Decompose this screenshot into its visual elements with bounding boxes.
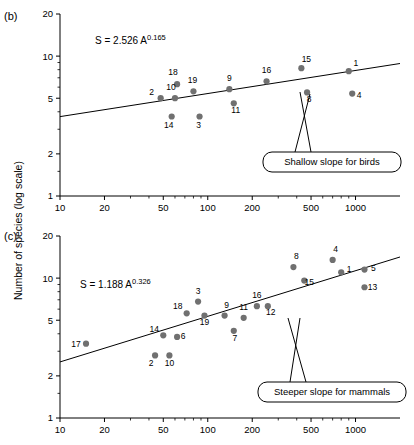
y-tick-label: 20 bbox=[42, 230, 53, 241]
x-tick-label: 1000 bbox=[345, 424, 366, 435]
data-point bbox=[254, 303, 260, 309]
data-point-label: 16 bbox=[262, 65, 272, 75]
panel-b-label: (b) bbox=[4, 10, 17, 22]
data-point-label: 11 bbox=[239, 302, 248, 312]
y-tick-label: 2 bbox=[48, 370, 53, 381]
data-point-label: 19 bbox=[200, 317, 210, 327]
data-point-label: 19 bbox=[188, 75, 198, 85]
data-point-label: 2 bbox=[149, 87, 154, 97]
x-tick-label: 20 bbox=[99, 202, 110, 213]
x-tick-label: 50 bbox=[158, 202, 169, 213]
data-point bbox=[361, 284, 367, 290]
data-point-label: 3 bbox=[196, 286, 201, 296]
data-point bbox=[190, 88, 196, 94]
y-tick-label: 5 bbox=[48, 315, 53, 326]
y-tick-label: 1 bbox=[48, 412, 53, 423]
data-point bbox=[172, 95, 178, 101]
x-tick-label: 200 bbox=[244, 424, 260, 435]
data-point bbox=[361, 267, 367, 273]
y-axis-label: Number of species (log scale) bbox=[12, 161, 24, 300]
x-tick-label: 1000 bbox=[345, 202, 366, 213]
data-point-label: 10 bbox=[166, 82, 176, 92]
data-point bbox=[338, 269, 344, 275]
equation-annotation: S = 1.188 A0.326 bbox=[80, 277, 151, 290]
y-tick-label: 10 bbox=[42, 51, 53, 62]
data-point bbox=[195, 298, 201, 304]
data-point-label: 9 bbox=[227, 73, 232, 83]
data-point bbox=[349, 90, 355, 96]
data-point-label: 18 bbox=[168, 67, 178, 77]
data-point-label: 12 bbox=[266, 307, 276, 317]
data-point bbox=[174, 334, 180, 340]
figure-root: (b) (c) Number of species (log scale) 12… bbox=[0, 0, 414, 445]
x-tick-label: 500 bbox=[303, 424, 319, 435]
callout-leader bbox=[295, 94, 310, 152]
x-tick-label: 50 bbox=[158, 424, 169, 435]
data-point-label: 5 bbox=[371, 263, 376, 273]
data-point bbox=[184, 310, 190, 316]
data-point bbox=[330, 257, 336, 263]
data-point bbox=[160, 332, 166, 338]
data-point-label: 14 bbox=[150, 324, 160, 334]
data-point bbox=[263, 78, 269, 84]
x-tick-label: 100 bbox=[200, 202, 216, 213]
panel-c: 12510201020501002005001000S = 1.188 A0.3… bbox=[42, 230, 406, 435]
panel-b: 12510201020501002005001000S = 2.526 A0.1… bbox=[42, 8, 401, 213]
figure-svg: 12510201020501002005001000S = 2.526 A0.1… bbox=[0, 0, 414, 445]
data-point-label: 4 bbox=[333, 244, 338, 254]
data-point-label: 3 bbox=[196, 120, 201, 130]
data-point bbox=[290, 264, 296, 270]
data-point-label: 4 bbox=[357, 90, 362, 100]
x-tick-label: 20 bbox=[99, 424, 110, 435]
data-point-label: 8 bbox=[294, 251, 299, 261]
x-tick-label: 200 bbox=[244, 202, 260, 213]
x-tick-label: 500 bbox=[303, 202, 319, 213]
data-point-label: 2 bbox=[149, 358, 154, 368]
data-point-label: 10 bbox=[165, 358, 175, 368]
callout-leader bbox=[288, 318, 306, 382]
data-point bbox=[241, 315, 247, 321]
y-tick-label: 5 bbox=[48, 93, 53, 104]
data-point bbox=[158, 95, 164, 101]
equation-annotation: S = 2.526 A0.165 bbox=[95, 33, 166, 46]
data-point-label: 1 bbox=[347, 264, 352, 274]
data-point bbox=[226, 86, 232, 92]
data-point bbox=[346, 68, 352, 74]
data-point-label: 15 bbox=[305, 277, 315, 287]
data-point-label: 9 bbox=[224, 300, 229, 310]
data-point-label: 14 bbox=[164, 120, 174, 130]
data-point-label: 17 bbox=[71, 339, 81, 349]
y-tick-label: 20 bbox=[42, 8, 53, 19]
callout-text: Shallow slope for birds bbox=[284, 156, 380, 167]
y-tick-label: 2 bbox=[48, 148, 53, 159]
data-point-label: 1 bbox=[353, 58, 358, 68]
y-tick-label: 10 bbox=[42, 273, 53, 284]
data-point bbox=[221, 312, 227, 318]
callout-leader bbox=[290, 318, 300, 382]
callout-text: Steeper slope for mammals bbox=[274, 386, 390, 397]
data-point-label: 16 bbox=[252, 290, 262, 300]
data-point bbox=[83, 341, 89, 347]
x-tick-label: 10 bbox=[55, 424, 66, 435]
data-point bbox=[298, 65, 304, 71]
x-tick-label: 100 bbox=[200, 424, 216, 435]
data-point-label: 11 bbox=[231, 105, 240, 115]
data-point-label: 6 bbox=[181, 331, 186, 341]
data-point-label: 13 bbox=[368, 282, 378, 292]
y-tick-label: 1 bbox=[48, 190, 53, 201]
data-point-label: 18 bbox=[173, 301, 183, 311]
data-point-label: 7 bbox=[232, 333, 237, 343]
data-point-label: 15 bbox=[302, 54, 312, 64]
x-tick-label: 10 bbox=[55, 202, 66, 213]
